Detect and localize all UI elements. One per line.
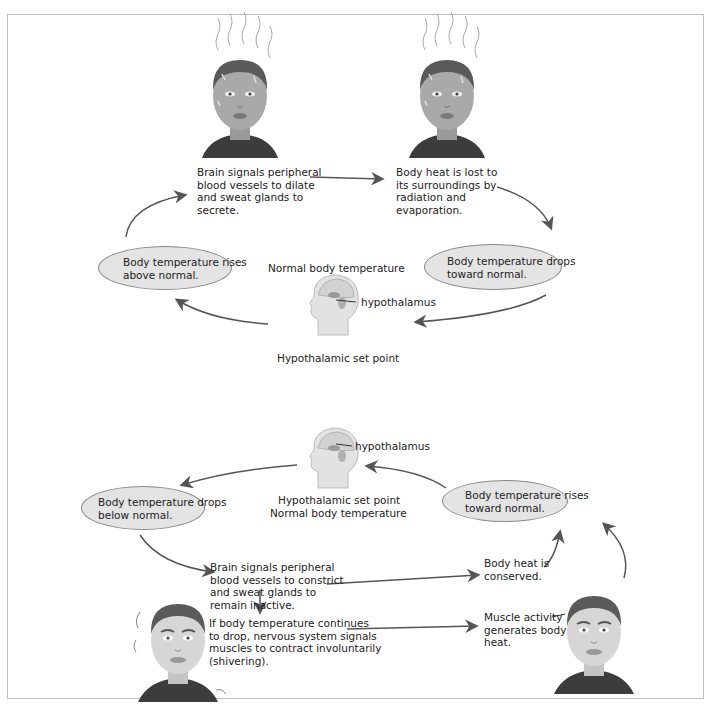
top-set-point-label: Hypothalamic set point [277, 352, 399, 365]
top-brain-signal-text: Brain signals peripheralblood vessels to… [197, 166, 322, 216]
arrow-drops-below-to-constrict [140, 535, 213, 572]
bottom-setpoint-text: Hypothalamic set point Normal body tempe… [270, 494, 407, 519]
muscle-activity-text: Muscle activitygenerates body heat. [484, 611, 566, 649]
arrow-heat-lost-to-drops [497, 187, 551, 228]
oval-rises-toward-normal: Body temperature risestoward normal. [442, 480, 568, 522]
top-heat-lost-text: Body heat is lost toits surroundings by … [396, 166, 497, 216]
bottom-brain-signal-text: Brain signals peripheralblood vessels to… [210, 561, 344, 611]
oval-drops-toward-normal: Body temperature dropstoward normal. [424, 244, 562, 290]
top-normal-temp-label: Normal body temperature [268, 262, 405, 275]
brain-head-top [310, 275, 358, 335]
arrow-rises-to-dilate [126, 195, 185, 237]
oval-drops-below-normal: Body temperature dropsbelow normal. [81, 486, 205, 530]
arrow-rises-toward-to-setpoint [367, 466, 446, 488]
brain-head-bottom [310, 428, 358, 488]
heat-conserved-text: Body heat isconserved. [484, 557, 549, 582]
arrow-setpoint-to-rises [177, 300, 268, 324]
arrow-constrict-to-conserved [327, 575, 478, 584]
top-hypothalamus-label: hypothalamus [361, 296, 436, 309]
arrow-setpoint-to-drops-below [182, 465, 297, 485]
hot-face-left [202, 12, 278, 158]
shivering-text: If body temperature continuesto drop, ne… [209, 617, 382, 667]
oval-rises-above-normal: Body temperature risesabove normal. [98, 246, 232, 290]
bottom-hypothalamus-label: hypothalamus [355, 440, 430, 453]
arrow-muscle-to-rises [604, 524, 626, 578]
hot-face-right [409, 12, 485, 158]
